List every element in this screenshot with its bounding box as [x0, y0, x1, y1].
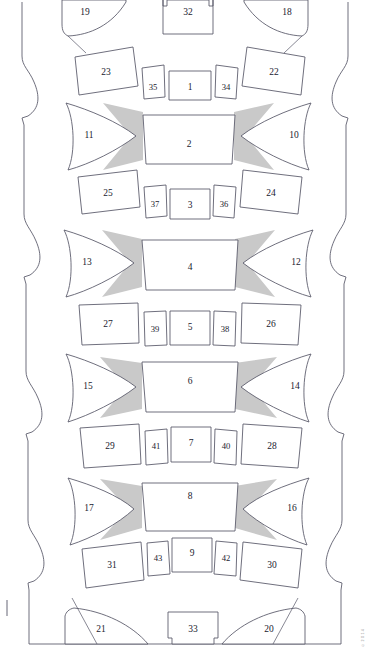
label-13: 13 — [82, 257, 92, 267]
row-segment-4-lower: 31 43 9 42 30 — [82, 538, 302, 588]
label-4: 4 — [188, 262, 193, 272]
top-section: 19 18 32 — [62, 0, 308, 36]
label-25: 25 — [103, 188, 113, 198]
label-22: 22 — [269, 67, 279, 77]
label-19: 19 — [80, 7, 90, 17]
label-23: 23 — [101, 67, 111, 77]
label-16: 16 — [287, 503, 297, 513]
row-segment-1-lower: 25 37 3 36 24 — [78, 170, 302, 219]
core-6[interactable] — [142, 362, 238, 412]
outer-boundary-right — [326, 2, 348, 644]
label-29: 29 — [105, 441, 115, 451]
label-1: 1 — [188, 82, 193, 92]
label-34: 34 — [222, 82, 231, 92]
core-8[interactable] — [142, 483, 238, 531]
label-36: 36 — [220, 199, 229, 209]
label-7: 7 — [189, 438, 194, 448]
label-10: 10 — [289, 130, 299, 140]
label-21: 21 — [96, 624, 106, 634]
row-segment-3-lower: 29 41 7 40 28 — [80, 424, 302, 468]
row-segment-2-lower: 27 39 5 38 26 — [79, 303, 301, 346]
label-26: 26 — [266, 319, 276, 329]
label-41: 41 — [152, 441, 161, 451]
label-32: 32 — [183, 7, 193, 17]
label-33: 33 — [188, 624, 198, 634]
label-6: 6 — [188, 376, 193, 386]
segment-1: 11 10 2 — [66, 103, 311, 170]
label-28: 28 — [267, 441, 277, 451]
label-20: 20 — [264, 624, 274, 634]
label-38: 38 — [221, 324, 230, 334]
schematic-svg: 19 18 32 23 35 1 34 22 — [0, 0, 367, 655]
label-12: 12 — [291, 257, 301, 267]
label-9: 9 — [190, 548, 195, 558]
segment-3: 15 14 6 — [66, 354, 311, 422]
label-5: 5 — [188, 322, 193, 332]
segment-2: 13 12 4 — [64, 230, 313, 297]
bottom-section: 21 20 33 — [65, 598, 305, 644]
top-guide-right — [284, 36, 302, 53]
label-11: 11 — [84, 130, 93, 140]
label-14: 14 — [290, 381, 300, 391]
arch-right-18[interactable] — [244, 0, 308, 36]
label-40: 40 — [222, 441, 231, 451]
label-24: 24 — [266, 188, 276, 198]
label-42: 42 — [222, 553, 231, 563]
outer-boundary-left — [22, 2, 44, 644]
copyright-note: © 2 0 1 4 — [362, 629, 366, 647]
label-27: 27 — [103, 319, 113, 329]
row-top-numbered: 23 35 1 34 22 — [75, 47, 305, 100]
label-43: 43 — [154, 553, 163, 563]
label-17: 17 — [84, 503, 94, 513]
label-35: 35 — [149, 82, 158, 92]
label-3: 3 — [188, 200, 193, 210]
label-39: 39 — [151, 324, 160, 334]
label-8: 8 — [188, 491, 193, 501]
label-2: 2 — [187, 139, 192, 149]
label-15: 15 — [83, 381, 93, 391]
label-18: 18 — [282, 7, 292, 17]
label-31: 31 — [107, 560, 117, 570]
diagram-canvas: 19 18 32 23 35 1 34 22 — [0, 0, 367, 655]
label-30: 30 — [267, 560, 277, 570]
segment-4: 17 16 8 — [68, 478, 309, 545]
arch-left-19[interactable] — [62, 0, 126, 36]
label-37: 37 — [151, 199, 160, 209]
top-guide-left — [68, 36, 86, 53]
fin-left-21[interactable] — [65, 608, 148, 644]
